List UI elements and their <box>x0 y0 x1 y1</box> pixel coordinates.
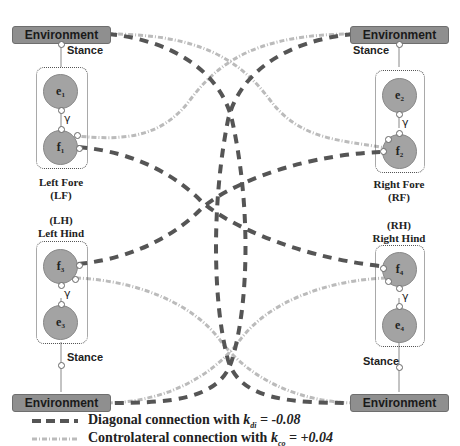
diagonal-connections <box>78 34 380 403</box>
port <box>396 285 403 292</box>
port <box>72 276 79 283</box>
port <box>58 301 65 308</box>
node-f1: f1 <box>43 130 78 165</box>
gamma-label-rh: γ <box>402 290 409 303</box>
node-e1: e1 <box>43 74 78 109</box>
contralateral-connections <box>76 34 386 403</box>
port <box>58 107 65 114</box>
port <box>58 126 65 133</box>
port <box>396 130 403 137</box>
contralateral-line-swatch <box>30 435 80 443</box>
port <box>380 265 387 272</box>
legend-contralateral: Controlateral connection with kco = +0.0… <box>30 430 333 446</box>
node-e2: e2 <box>382 78 417 113</box>
port <box>385 136 392 143</box>
port <box>396 41 403 48</box>
port <box>58 362 65 369</box>
stance-label-lh: Stance <box>67 351 103 363</box>
node-e4: e4 <box>382 308 417 343</box>
port <box>396 364 403 371</box>
port <box>74 132 81 139</box>
stance-label-rh: Stance <box>363 355 399 367</box>
environment-bottom-right: Environment <box>350 394 449 412</box>
limb-label-lf: Left Fore(LF) <box>16 176 106 202</box>
port <box>396 111 403 118</box>
node-e3: e3 <box>43 305 78 340</box>
port <box>396 303 403 310</box>
limb-label-lh: (LH)Left Hind <box>16 214 106 240</box>
legend-diagonal: Diagonal connection with kdi = -0.08 <box>30 412 301 430</box>
port <box>385 278 392 285</box>
gamma-label-lh: γ <box>64 287 71 300</box>
limb-label-rf: Right Fore(RF) <box>354 178 444 204</box>
port <box>76 262 83 269</box>
port <box>58 41 65 48</box>
stance-label-lf: Stance <box>67 44 103 56</box>
port <box>380 148 387 155</box>
port <box>76 145 83 152</box>
environment-bottom-left: Environment <box>12 394 111 412</box>
gamma-label-lf: γ <box>64 112 71 125</box>
gamma-label-rf: γ <box>402 116 409 129</box>
limb-label-rh: (RH)Right Hind <box>354 219 444 245</box>
diagonal-line-swatch <box>30 417 80 425</box>
port <box>58 282 65 289</box>
stance-label-rf: Stance <box>353 44 389 56</box>
